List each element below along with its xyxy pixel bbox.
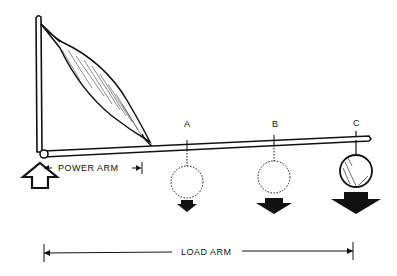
upright-bone — [36, 16, 42, 152]
load-arm-label: LOAD ARM — [181, 247, 232, 257]
power-arm-label: POWER ARM — [58, 163, 119, 173]
point-c: C — [331, 118, 381, 214]
load-arm-dimension: LOAD ARM — [44, 242, 353, 262]
point-c-label: C — [353, 118, 360, 128]
down-arrow-small-icon — [177, 200, 197, 212]
lever-diagram: POWER ARM A B C — [0, 0, 397, 276]
power-arm-dimension: POWER ARM — [44, 162, 142, 174]
down-arrow-large-icon — [331, 192, 381, 214]
lever-arm — [40, 136, 371, 158]
down-arrow-medium-icon — [256, 198, 292, 214]
up-arrow-outline-icon — [23, 163, 57, 188]
muscle — [41, 24, 152, 146]
point-a: A — [171, 119, 203, 212]
point-a-label: A — [184, 119, 190, 129]
point-b-label: B — [272, 119, 278, 129]
point-b: B — [256, 119, 292, 214]
